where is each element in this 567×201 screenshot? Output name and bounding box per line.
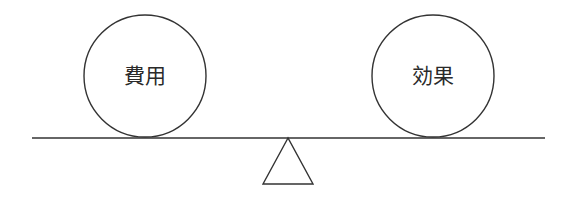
left-weight: 費用 — [84, 15, 206, 137]
fulcrum-triangle — [263, 138, 313, 184]
right-weight: 効果 — [372, 15, 494, 137]
balance-diagram: 費用 効果 — [0, 0, 567, 201]
right-weight-label: 効果 — [412, 64, 454, 88]
left-weight-label: 費用 — [124, 64, 166, 88]
